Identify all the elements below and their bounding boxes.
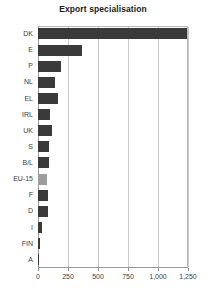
bar-p[interactable] xyxy=(38,61,61,72)
bar-row[interactable] xyxy=(38,58,188,74)
bar-row[interactable] xyxy=(38,139,188,155)
y-axis-tick-label: FIN xyxy=(22,236,33,252)
chart-container: Export specialisation DKEPNLELIRLUKSB/LE… xyxy=(0,0,206,303)
bar-b-l[interactable] xyxy=(38,157,49,168)
chart-title: Export specialisation xyxy=(0,4,206,14)
bars-group xyxy=(38,26,188,268)
x-axis-tick-mark xyxy=(188,268,189,271)
x-axis-tick-label: 250 xyxy=(62,273,74,280)
y-axis-tick-label: IRL xyxy=(22,107,33,123)
bar-uk[interactable] xyxy=(38,125,52,136)
bar-el[interactable] xyxy=(38,93,58,104)
y-axis-tick-label: I xyxy=(31,220,33,236)
y-axis-tick-label: EL xyxy=(24,91,33,107)
bar-e[interactable] xyxy=(38,45,82,56)
bar-fin[interactable] xyxy=(38,238,40,249)
x-axis-tick-label: 750 xyxy=(122,273,134,280)
bar-row[interactable] xyxy=(38,26,188,42)
y-axis-tick-label: NL xyxy=(24,74,33,90)
bar-nl[interactable] xyxy=(38,77,55,88)
bar-row[interactable] xyxy=(38,220,188,236)
x-axis-tick-mark xyxy=(38,268,39,271)
y-axis-tick-label: UK xyxy=(23,123,33,139)
bar-row[interactable] xyxy=(38,252,188,268)
y-axis-tick-label: EU-15 xyxy=(13,171,33,187)
bar-row[interactable] xyxy=(38,203,188,219)
x-axis-tick-label: 500 xyxy=(92,273,104,280)
bar-d[interactable] xyxy=(38,206,48,217)
x-axis-tick-mark xyxy=(128,268,129,271)
y-axis-tick-label: A xyxy=(28,252,33,268)
bar-i[interactable] xyxy=(38,222,42,233)
bar-row[interactable] xyxy=(38,187,188,203)
x-axis-tick-mark xyxy=(68,268,69,271)
bar-row[interactable] xyxy=(38,171,188,187)
bar-irl[interactable] xyxy=(38,109,50,120)
y-axis-tick-label: D xyxy=(28,203,33,219)
bar-row[interactable] xyxy=(38,91,188,107)
x-axis-tick-label: 1,000 xyxy=(149,273,167,280)
bar-row[interactable] xyxy=(38,236,188,252)
bar-f[interactable] xyxy=(38,190,48,201)
y-axis-tick-label: B/L xyxy=(22,155,33,171)
x-axis-tick-mark xyxy=(158,268,159,271)
x-axis-tick-mark xyxy=(98,268,99,271)
y-axis-tick-label: F xyxy=(29,187,33,203)
bar-dk[interactable] xyxy=(38,28,187,39)
bar-row[interactable] xyxy=(38,155,188,171)
x-axis-tick-label: 0 xyxy=(36,273,40,280)
bar-row[interactable] xyxy=(38,74,188,90)
y-axis-tick-label: E xyxy=(28,42,33,58)
x-axis-tick-label: 1,250 xyxy=(179,273,197,280)
y-axis-labels: DKEPNLELIRLUKSB/LEU-15FDIFINA xyxy=(0,26,36,268)
bar-row[interactable] xyxy=(38,42,188,58)
bar-row[interactable] xyxy=(38,107,188,123)
bar-s[interactable] xyxy=(38,141,49,152)
bar-row[interactable] xyxy=(38,123,188,139)
bar-eu-15[interactable] xyxy=(38,174,47,185)
y-axis-tick-label: DK xyxy=(23,26,33,42)
y-axis-tick-label: P xyxy=(28,58,33,74)
bar-a[interactable] xyxy=(38,254,39,265)
gridline-1250 xyxy=(188,27,189,267)
y-axis-tick-label: S xyxy=(28,139,33,155)
